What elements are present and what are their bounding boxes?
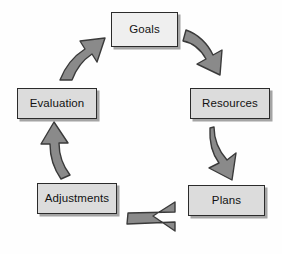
cycle-diagram: Goals Resources Plans Adjustments Evalua… xyxy=(0,0,282,254)
node-goals-label: Goals xyxy=(129,24,160,36)
arrow-evaluation-to-goals xyxy=(60,38,105,80)
node-adjustments[interactable]: Adjustments xyxy=(37,183,117,214)
arrow-plans-to-adjustments xyxy=(127,202,175,231)
arrow-resources-to-plans xyxy=(209,127,236,180)
node-adjustments-label: Adjustments xyxy=(45,193,109,205)
arrow-adjustments-to-evaluation xyxy=(41,122,70,179)
node-evaluation-label: Evaluation xyxy=(30,98,85,110)
node-plans[interactable]: Plans xyxy=(188,185,265,216)
node-evaluation[interactable]: Evaluation xyxy=(17,88,97,119)
arrow-goals-to-resources xyxy=(183,30,222,75)
node-resources-label: Resources xyxy=(202,98,258,110)
node-goals[interactable]: Goals xyxy=(111,12,178,47)
node-resources[interactable]: Resources xyxy=(190,88,270,119)
node-plans-label: Plans xyxy=(212,195,241,207)
